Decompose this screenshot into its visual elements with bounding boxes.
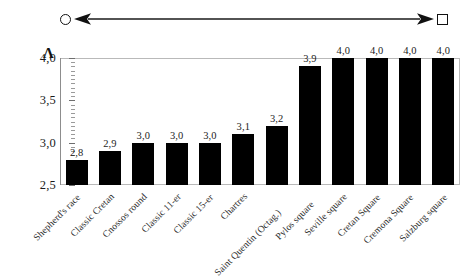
bars-layer: 2,82,93,03,03,03,13,23,94,04,04,04,0 (60, 58, 460, 185)
bar-value-label: 3,0 (170, 130, 183, 141)
y-axis-tick-label: 3,0 (22, 135, 56, 150)
bar-value-label: 3,9 (303, 53, 316, 64)
bar[interactable] (166, 143, 188, 185)
bar-group[interactable]: 2,8 (60, 58, 93, 185)
circle-outline-icon (60, 14, 71, 25)
bar-chart: Λ 4,03,53,02,5 2,82,93,03,03,03,13,23,94… (0, 42, 465, 279)
bar-group[interactable]: 4,0 (327, 58, 360, 185)
bar[interactable] (399, 58, 421, 185)
bar-group[interactable]: 4,0 (393, 58, 426, 185)
y-axis-tick-label: 4,0 (22, 51, 56, 66)
bar-value-label: 4,0 (403, 45, 416, 56)
bar-group[interactable]: 4,0 (427, 58, 460, 185)
bar[interactable] (266, 126, 288, 185)
bar[interactable] (366, 58, 388, 185)
bar[interactable] (232, 134, 254, 185)
x-axis-category-labels: Shepherd's raceClassic CretanCnossos rou… (60, 187, 460, 279)
bar-value-label: 3,1 (237, 121, 250, 132)
bar[interactable] (332, 58, 354, 185)
bar-group[interactable]: 3,2 (260, 58, 293, 185)
y-axis-tick-label: 3,5 (22, 93, 56, 108)
bar-value-label: 2,9 (103, 138, 116, 149)
spectrum-indicator (0, 0, 465, 42)
y-axis-tick-labels: 4,03,53,02,5 (14, 58, 56, 185)
bar-group[interactable]: 3,0 (193, 58, 226, 185)
bar-value-label: 3,0 (203, 130, 216, 141)
bar-value-label: 3,0 (137, 130, 150, 141)
bar[interactable] (66, 160, 88, 185)
bar-value-label: 3,2 (270, 113, 283, 124)
bar-value-label: 4,0 (437, 45, 450, 56)
bar-value-label: 4,0 (370, 45, 383, 56)
bar-group[interactable]: 3,1 (227, 58, 260, 185)
bar[interactable] (99, 151, 121, 185)
bar[interactable] (299, 66, 321, 185)
bar[interactable] (132, 143, 154, 185)
bar-value-label: 4,0 (337, 45, 350, 56)
bar-value-label: 2,8 (70, 147, 83, 158)
square-outline-icon (437, 14, 448, 25)
bar-group[interactable]: 3,0 (160, 58, 193, 185)
bar-group[interactable]: 3,9 (293, 58, 326, 185)
bar[interactable] (432, 58, 454, 185)
bar-group[interactable]: 4,0 (360, 58, 393, 185)
x-axis-category-label: Chartres (218, 191, 249, 222)
bar-group[interactable]: 2,9 (93, 58, 126, 185)
bar-group[interactable]: 3,0 (127, 58, 160, 185)
y-axis-major-tick (69, 185, 75, 186)
bar[interactable] (199, 143, 221, 185)
double-headed-arrow-icon (74, 8, 434, 30)
y-axis-tick-label: 2,5 (22, 178, 56, 193)
